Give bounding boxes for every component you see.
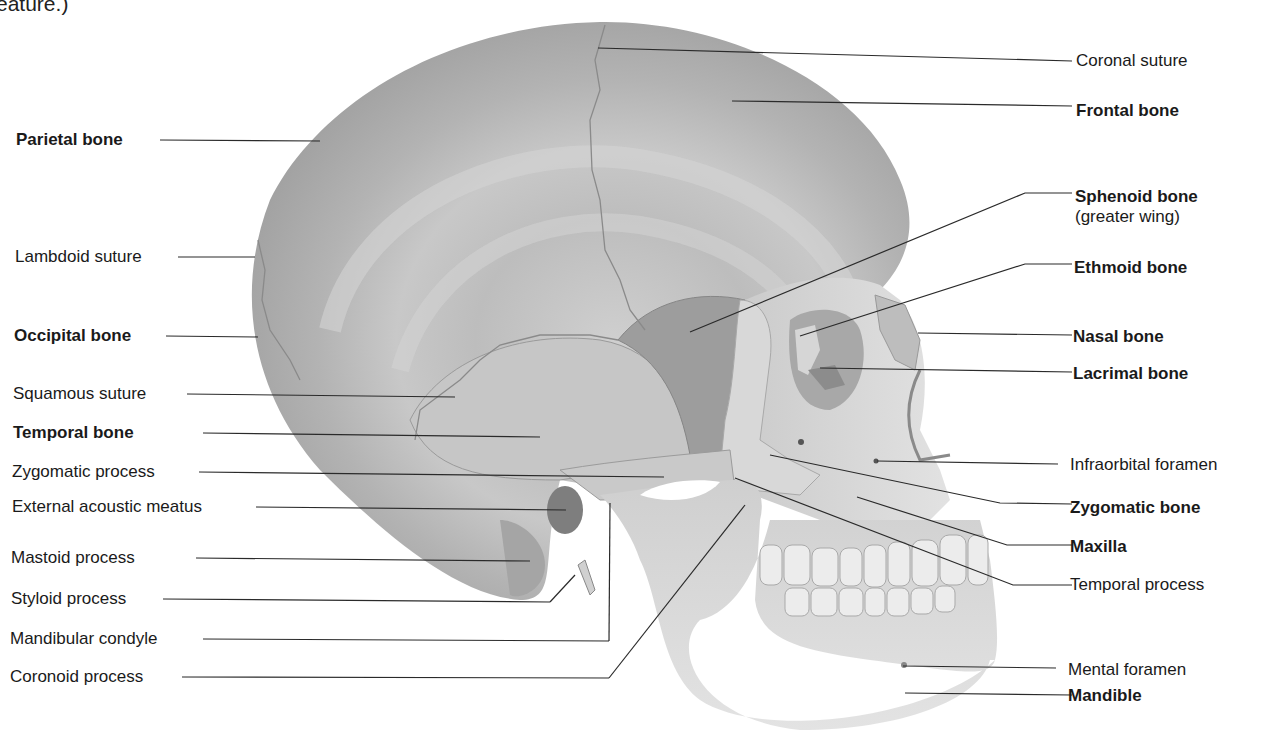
label-parietal-bone: Parietal bone — [16, 130, 123, 150]
label-styloid-process: Styloid process — [11, 589, 126, 609]
label-mandible: Mandible — [1068, 686, 1142, 706]
teeth — [760, 535, 988, 616]
label-external-acoustic-meatus: External acoustic meatus — [12, 497, 202, 517]
label-infraorbital-foramen: Infraorbital foramen — [1070, 455, 1217, 475]
label-frontal-bone: Frontal bone — [1076, 101, 1179, 121]
label-temporal-bone: Temporal bone — [13, 423, 134, 443]
label-ethmoid-bone: Ethmoid bone — [1074, 258, 1187, 278]
label-mental-foramen: Mental foramen — [1068, 660, 1186, 680]
label-squamous-suture: Squamous suture — [13, 384, 146, 404]
label-coronoid-process: Coronoid process — [10, 667, 143, 687]
label-zygomatic-bone: Zygomatic bone — [1070, 498, 1200, 518]
label-zygomatic-process: Zygomatic process — [12, 462, 155, 482]
label-nasal-bone: Nasal bone — [1073, 327, 1164, 347]
label-lambdoid-suture: Lambdoid suture — [15, 247, 142, 267]
label-occipital-bone: Occipital bone — [14, 326, 131, 346]
label-mandibular-condyle: Mandibular condyle — [10, 629, 157, 649]
label-sphenoid-bone-sub: (greater wing) — [1075, 207, 1198, 227]
label-maxilla: Maxilla — [1070, 537, 1127, 557]
label-sphenoid-bone-main: Sphenoid bone — [1075, 187, 1198, 206]
label-coronal-suture: Coronal suture — [1076, 51, 1188, 71]
label-mastoid-process: Mastoid process — [11, 548, 135, 568]
mental-foramen-dot — [901, 662, 907, 668]
styloid-shape — [578, 560, 595, 595]
label-temporal-process: Temporal process — [1070, 575, 1204, 595]
zygomaticofacial-foramen — [798, 439, 804, 445]
label-sphenoid-bone: Sphenoid bone (greater wing) — [1075, 187, 1198, 227]
label-lacrimal-bone: Lacrimal bone — [1073, 364, 1188, 384]
